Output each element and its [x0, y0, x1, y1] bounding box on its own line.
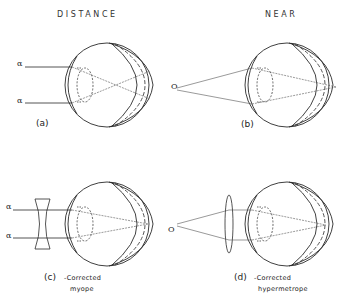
ray-symbol-c-top: α	[6, 202, 11, 211]
caption-b: (b)	[241, 119, 254, 129]
caption-a: (a)	[36, 118, 49, 128]
ray-symbol-a-bottom: α	[17, 96, 22, 105]
heading-distance: DISTANCE	[57, 10, 118, 19]
subtitle-c-1: -Corrected	[64, 274, 101, 282]
panel-c-corrected-myope	[13, 182, 153, 266]
ray-symbol-a-top: α	[17, 59, 22, 68]
object-symbol-b: O	[171, 82, 178, 91]
caption-c: (c)	[44, 272, 56, 282]
heading-near: NEAR	[265, 10, 297, 19]
eye-refraction-diagram	[0, 0, 347, 296]
caption-d: (d)	[234, 272, 247, 282]
ray-symbol-c-bottom: α	[6, 231, 11, 240]
object-symbol-d: O	[168, 225, 175, 234]
subtitle-c-2: myope	[70, 285, 94, 293]
panel-b-near-hypermetrope	[177, 43, 336, 127]
convex-lens	[225, 195, 233, 253]
subtitle-d-2: hypermetrope	[258, 285, 308, 293]
panel-a-distance-myope	[25, 43, 153, 127]
panel-d-corrected-hypermetrope	[177, 182, 333, 266]
concave-lens	[35, 199, 50, 249]
subtitle-d-1: -Corrected	[254, 274, 291, 282]
